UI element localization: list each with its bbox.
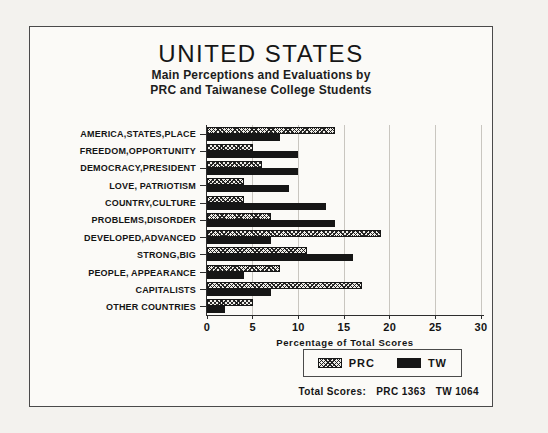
category-label: PEOPLE, APPEARANCE: [30, 264, 206, 281]
x-tick-30: [481, 315, 482, 319]
chart-title: UNITED STATES: [30, 40, 492, 68]
bar-row: [207, 211, 484, 228]
x-tick-label-5: 5: [249, 321, 255, 333]
chart-subtitle-line2: PRC and Taiwanese College Students: [30, 83, 492, 98]
bar-row: [207, 194, 484, 211]
bar-row: [207, 142, 484, 159]
bar-prc-8: [207, 265, 280, 272]
y-tick: [200, 220, 207, 221]
category-label: COUNTRY,CULTURE: [30, 194, 206, 211]
total-scores-tw: TW 1064: [436, 386, 479, 397]
bar-tw-9: [207, 289, 271, 296]
bar-prc-9: [207, 282, 362, 289]
category-labels: AMERICA,STATES,PLACEFREEDOM,OPPORTUNITYD…: [30, 125, 206, 316]
y-tick: [200, 306, 207, 307]
x-tick-label-0: 0: [204, 321, 210, 333]
bar-tw-5: [207, 220, 335, 227]
y-tick: [200, 237, 207, 238]
x-tick-label-25: 25: [429, 321, 442, 333]
x-tick-15: [344, 315, 345, 319]
chart-subtitle-line1: Main Perceptions and Evaluations by: [30, 68, 492, 83]
y-tick: [200, 254, 207, 255]
bar-prc-0: [207, 127, 335, 134]
plot-area: 051015202530: [206, 125, 484, 316]
bar-row: [207, 263, 484, 280]
bar-prc-4: [207, 196, 244, 203]
category-label: DEVELOPED,ADVANCED: [30, 229, 206, 246]
scanned-page: { "chart": { "title": "UNITED STATES", "…: [0, 0, 548, 433]
category-label: DEMOCRACY,PRESIDENT: [30, 160, 206, 177]
y-tick: [200, 185, 207, 186]
y-tick: [200, 289, 207, 290]
y-tick: [200, 168, 207, 169]
bar-prc-10: [207, 299, 253, 306]
bar-tw-3: [207, 185, 289, 192]
x-tick-10: [298, 315, 299, 319]
bar-row: [207, 280, 484, 297]
x-tick-5: [252, 315, 253, 319]
category-label: STRONG,BIG: [30, 247, 206, 264]
bar-row: [207, 246, 484, 263]
bar-prc-1: [207, 144, 253, 151]
category-label: OTHER COUNTRIES: [30, 299, 206, 316]
legend: PRC TW: [303, 349, 462, 377]
category-label: AMERICA,STATES,PLACE: [30, 125, 206, 142]
x-tick-25: [435, 315, 436, 319]
bar-row: [207, 229, 484, 246]
category-label: CAPITALISTS: [30, 281, 206, 298]
x-tick-label-10: 10: [292, 321, 305, 333]
bar-prc-3: [207, 178, 244, 185]
y-tick: [200, 134, 207, 135]
chart-frame: UNITED STATES Main Perceptions and Evalu…: [29, 26, 493, 407]
bar-prc-6: [207, 230, 381, 237]
legend-item-prc: PRC: [318, 357, 375, 369]
legend-item-tw: TW: [397, 357, 447, 369]
x-tick-label-20: 20: [383, 321, 396, 333]
bar-row: [207, 177, 484, 194]
x-tick-label-30: 30: [475, 321, 488, 333]
bar-tw-10: [207, 306, 225, 313]
bar-tw-0: [207, 134, 280, 141]
y-tick: [200, 203, 207, 204]
bar-prc-5: [207, 213, 271, 220]
total-scores: Total Scores: PRC 1363 TW 1064: [298, 386, 479, 397]
y-tick: [200, 151, 207, 152]
category-label: LOVE, PATRIOTISM: [30, 177, 206, 194]
bar-row: [207, 298, 484, 315]
total-scores-label: Total Scores:: [298, 386, 366, 397]
category-label: PROBLEMS,DISORDER: [30, 212, 206, 229]
bar-rows: [207, 125, 484, 315]
x-tick-label-15: 15: [338, 321, 351, 333]
legend-label-tw: TW: [428, 357, 447, 369]
bar-tw-2: [207, 168, 298, 175]
y-tick: [200, 272, 207, 273]
tw-solid-swatch-icon: [397, 358, 421, 368]
bar-prc-7: [207, 247, 307, 254]
x-axis-title: Percentage of Total Scores: [206, 337, 484, 348]
x-tick-20: [389, 315, 390, 319]
bar-tw-7: [207, 254, 353, 261]
bar-tw-4: [207, 203, 326, 210]
prc-hatched-swatch-icon: [318, 358, 342, 368]
legend-label-prc: PRC: [349, 357, 375, 369]
bar-row: [207, 160, 484, 177]
bar-prc-2: [207, 161, 262, 168]
bar-row: [207, 125, 484, 142]
category-label: FREEDOM,OPPORTUNITY: [30, 142, 206, 159]
bar-tw-6: [207, 237, 271, 244]
x-tick-0: [207, 315, 208, 319]
bar-tw-1: [207, 151, 298, 158]
total-scores-prc: PRC 1363: [376, 386, 425, 397]
bar-tw-8: [207, 272, 244, 279]
